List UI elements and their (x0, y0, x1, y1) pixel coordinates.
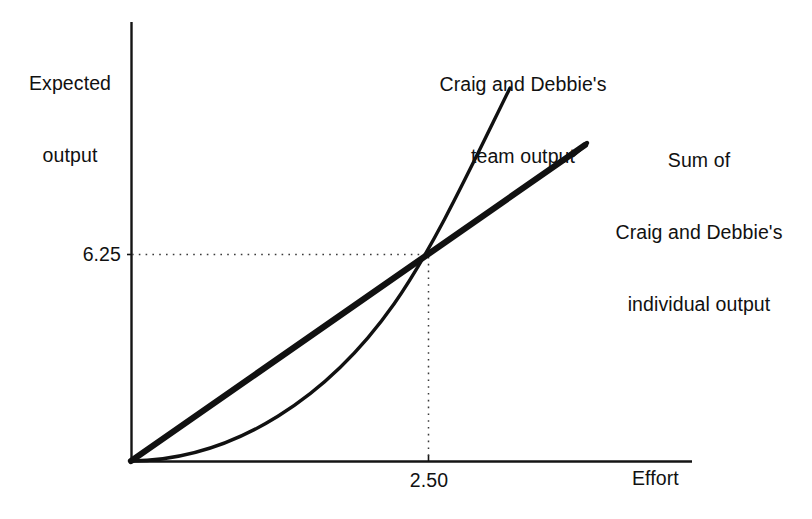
x-axis-tick-label-250: 2.50 (400, 468, 458, 492)
y-axis-title: Expected output (18, 23, 122, 215)
y-axis-title-line2: output (18, 143, 122, 167)
annotation-sum-individual-output: Sum of Craig and Debbie's individual out… (592, 100, 806, 364)
annotation-sum-line3: individual output (592, 292, 806, 316)
annotation-sum-line2: Craig and Debbie's (592, 220, 806, 244)
y-axis-title-line1: Expected (18, 71, 122, 95)
annotation-sum-line1: Sum of (592, 148, 806, 172)
y-axis-tick-label-625: 6.25 (69, 242, 121, 266)
chart-figure: Expected output Effort 6.25 2.50 Craig a… (0, 0, 812, 519)
annotation-team-output-line1: Craig and Debbie's (415, 72, 631, 96)
x-axis-title: Effort (632, 466, 679, 490)
